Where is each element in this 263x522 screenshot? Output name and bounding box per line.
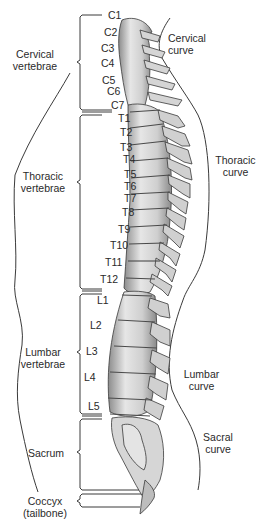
label-lumbar-vertebrae: Lumbar vertebrae xyxy=(12,346,74,370)
vertebra-label: C7 xyxy=(111,100,124,111)
group-label-line1: Lumbar xyxy=(12,346,74,358)
group-label-line2: vertebrae xyxy=(12,358,74,370)
vertebra-label: L4 xyxy=(84,372,96,383)
vertebra-label: L5 xyxy=(88,401,100,412)
vertebra-label: C2 xyxy=(104,27,117,38)
vertebra-label: T12 xyxy=(100,274,118,285)
label-cervical-vertebrae: Cervical vertebrae xyxy=(2,48,68,72)
label-sacral-curve: Sacral curve xyxy=(193,431,243,455)
label-cervical-curve: Cervical curve xyxy=(168,32,228,56)
spine-diagram: Cervical vertebrae Thoracic vertebrae Lu… xyxy=(0,0,263,522)
vertebra-label: T8 xyxy=(122,207,134,218)
vertebra-label: T3 xyxy=(120,142,132,153)
label-thoracic-curve: Thoracic curve xyxy=(208,154,263,178)
vertebra-label: L2 xyxy=(90,320,102,331)
vertebra-label: C3 xyxy=(101,43,114,54)
vertebra-label: L3 xyxy=(86,346,98,357)
label-lumbar-curve: Lumbar curve xyxy=(174,368,229,392)
vertebra-label: T6 xyxy=(124,181,136,192)
group-label-line1: Sacrum xyxy=(18,447,74,459)
curve-label-line1: Thoracic xyxy=(208,154,263,166)
group-label-line2: (tailbone) xyxy=(14,507,76,519)
group-label-line1: Coccyx xyxy=(14,495,76,507)
vertebra-label: C1 xyxy=(108,10,121,21)
label-sacrum: Sacrum xyxy=(18,447,74,459)
vertebra-label: T1 xyxy=(118,113,130,124)
curve-label-line2: curve xyxy=(168,44,228,56)
vertebra-label: T9 xyxy=(118,224,130,235)
group-label-line2: vertebrae xyxy=(12,182,74,194)
curve-label-line2: curve xyxy=(193,443,243,455)
back-outline xyxy=(14,73,70,492)
group-label-line2: vertebrae xyxy=(2,60,68,72)
curve-label-line1: Sacral xyxy=(193,431,243,443)
vertebra-label: T7 xyxy=(124,193,136,204)
curve-label-line1: Lumbar xyxy=(174,368,229,380)
curve-label-line2: curve xyxy=(208,166,263,178)
group-label-line1: Cervical xyxy=(2,48,68,60)
vertebra-label: C6 xyxy=(107,86,120,97)
curve-label-line2: curve xyxy=(174,380,229,392)
group-label-line1: Thoracic xyxy=(12,170,74,182)
vertebra-label: T4 xyxy=(123,154,135,165)
vertebra-label: T2 xyxy=(120,127,132,138)
label-thoracic-vertebrae: Thoracic vertebrae xyxy=(12,170,74,194)
vertebra-label: T11 xyxy=(105,257,122,268)
label-coccyx: Coccyx (tailbone) xyxy=(14,495,76,519)
vertebra-label: C4 xyxy=(101,58,114,69)
curve-label-line1: Cervical xyxy=(168,32,228,44)
vertebra-label: L1 xyxy=(97,295,109,306)
vertebra-label: T10 xyxy=(110,240,128,251)
vertebra-label: T5 xyxy=(124,169,136,180)
